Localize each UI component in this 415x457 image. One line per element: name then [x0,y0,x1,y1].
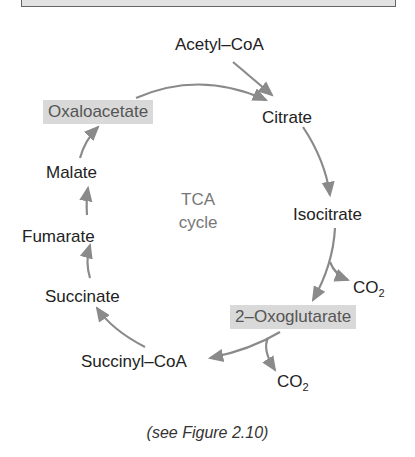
node-co2-1: CO2 [353,278,385,303]
node-isocitrate: Isocitrate [293,205,362,225]
cycle-title: TCA cycle [168,188,228,234]
node-acetyl-coa: Acetyl–CoA [175,35,264,55]
figure-caption: (see Figure 2.10) [0,424,415,442]
node-2-oxoglutarate: 2–Oxoglutarate [230,305,356,329]
node-malate: Malate [46,163,97,183]
node-oxaloacetate: Oxaloacetate [43,100,153,124]
node-fumarate: Fumarate [22,227,95,247]
cycle-title-line2: cycle [168,211,228,234]
node-citrate: Citrate [262,108,312,128]
node-succinate: Succinate [45,287,120,307]
node-co2-2: CO2 [277,372,309,397]
cycle-title-line1: TCA [168,188,228,211]
node-succinyl-coa: Succinyl–CoA [81,352,187,372]
